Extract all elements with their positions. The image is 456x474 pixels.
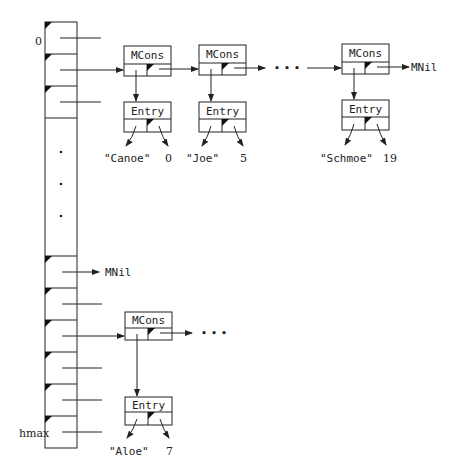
index-label-last: hmax bbox=[19, 427, 50, 440]
node-type-label: MCons bbox=[349, 47, 382, 60]
node-type-label: Entry bbox=[349, 103, 382, 116]
entry-key: "Schmoe" bbox=[320, 152, 373, 165]
index-label-first: 0 bbox=[35, 35, 42, 48]
entry-value: 7 bbox=[166, 445, 173, 458]
entry-value: 0 bbox=[165, 152, 172, 165]
ellipsis-dot bbox=[60, 183, 63, 186]
ellipsis-dot bbox=[60, 151, 63, 154]
node-type-label: MCons bbox=[206, 48, 239, 61]
entry-key: "Aloe" bbox=[109, 445, 149, 458]
bucket-array: 0 hmax bbox=[19, 22, 102, 448]
chain-top: MCons Entry "Canoe" 0 MCons bbox=[60, 44, 438, 165]
mcons-node: MCons bbox=[199, 45, 246, 75]
chain-ellipsis: • • • bbox=[201, 327, 227, 340]
ellipsis-dot bbox=[60, 215, 63, 218]
entry-value: 5 bbox=[240, 152, 247, 165]
node-type-label: Entry bbox=[206, 105, 239, 118]
entry-node: Entry bbox=[124, 102, 171, 132]
node-type-label: MCons bbox=[132, 314, 165, 327]
entry-node: Entry bbox=[125, 397, 172, 425]
node-type-label: Entry bbox=[131, 105, 164, 118]
chain-bottom: MCons • • • Entry "Aloe" 7 bbox=[62, 312, 227, 458]
hash-table-diagram: 0 hmax MCons Entry bbox=[0, 0, 456, 474]
entry-key: "Joe" bbox=[186, 152, 219, 165]
chain-ellipsis: • • • bbox=[274, 62, 300, 75]
mcons-node: MCons bbox=[125, 312, 172, 340]
entry-node: Entry bbox=[342, 100, 389, 130]
node-type-label: MCons bbox=[131, 49, 164, 62]
terminator-label: MNil bbox=[411, 61, 438, 74]
mcons-node: MCons bbox=[124, 46, 171, 76]
node-type-label: Entry bbox=[132, 399, 165, 412]
mcons-node: MCons bbox=[342, 44, 389, 74]
entry-value: 19 bbox=[383, 152, 397, 165]
entry-key: "Canoe" bbox=[104, 152, 150, 165]
entry-node: Entry bbox=[199, 102, 246, 132]
terminator-label: MNil bbox=[105, 266, 132, 279]
